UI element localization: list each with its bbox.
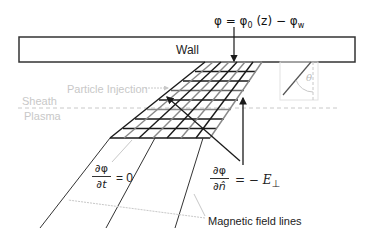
particle-injection-label: Particle Injection <box>67 84 148 95</box>
normal-derivative-numerator: ∂φ <box>210 164 229 179</box>
e-field-text: = − E <box>235 173 272 187</box>
perp-subscript: ⊥ <box>272 178 281 189</box>
wall-label: Wall <box>176 44 199 56</box>
time-derivative-numerator: ∂φ <box>92 162 111 177</box>
sheath-label: Sheath <box>22 96 57 107</box>
angle-inset <box>280 62 318 100</box>
phi-text: φ = φ <box>214 14 248 28</box>
field-line-3 <box>175 138 203 228</box>
magnetic-field-lines-label: Magnetic field lines <box>208 216 302 227</box>
normal-derivative-fraction: ∂φ ∂n̂ <box>210 164 229 193</box>
theta-label: θ <box>306 73 312 83</box>
time-derivative-pointer <box>112 140 132 162</box>
time-derivative-fraction: ∂φ ∂t <box>92 162 111 191</box>
mesh-grid <box>110 62 262 138</box>
potential-boundary-condition: φ = φ0 (z) − φw <box>214 15 304 30</box>
normal-derivative-equals: = − E⊥ <box>235 174 280 189</box>
field-line-pointer-1 <box>68 200 205 218</box>
time-derivative-equals: = 0 <box>116 172 133 184</box>
time-derivative-denominator: ∂t <box>92 177 111 191</box>
field-line-pointer-2 <box>194 194 205 216</box>
phi-subscript-w: w <box>298 21 305 30</box>
plasma-label: Plasma <box>24 111 61 122</box>
phi-mid-text: (z) − φ <box>253 14 298 28</box>
normal-derivative-denominator: ∂n̂ <box>210 179 229 193</box>
